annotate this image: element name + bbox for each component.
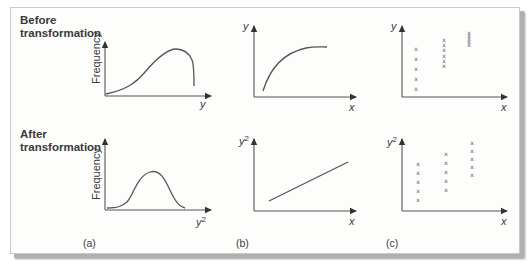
panel-c-after: y2 x xxxxxxxxxxxxxxx: [386, 135, 507, 227]
y-axis-label: y2: [238, 134, 250, 147]
scatter-mark: x: [414, 65, 418, 72]
straight-line: [269, 162, 348, 201]
x-axis-label: x: [500, 215, 507, 227]
scatter-mark: x: [470, 155, 474, 162]
panel-tag-b: (b): [236, 237, 249, 249]
scatter-mark: x: [444, 150, 448, 157]
y-axis-label: Frequency: [90, 32, 102, 84]
scatter-mark: x: [444, 168, 448, 175]
scatter-mark: x: [470, 163, 474, 170]
row-label-before-line2: transformation: [20, 27, 101, 39]
scatter-mark: x: [444, 186, 448, 193]
scatter-mark: x: [416, 196, 420, 203]
row-label-before-line1: Before: [20, 14, 56, 26]
scatter-mark: x: [414, 75, 418, 82]
scatter-mark: x: [414, 45, 418, 52]
bell-curve: [107, 171, 185, 208]
row-label-after-line2: transformation: [20, 141, 101, 153]
row-label-after-line1: After: [20, 128, 47, 140]
scatter-mark: x: [414, 85, 418, 92]
y-axis-label: Frequency: [90, 148, 102, 200]
scatter-mark: x: [467, 41, 471, 48]
scatter-mark: x: [470, 139, 474, 146]
panel-a-before: Frequency y: [90, 32, 211, 110]
transformation-figure: Before transformation After transformati…: [0, 0, 531, 267]
x-axis-label-base: y2: [195, 215, 207, 228]
scatter-mark: x: [416, 187, 420, 194]
x-axis-label: x: [348, 215, 355, 227]
panel-tag-a: (a): [83, 237, 96, 249]
scatter-mark: x: [444, 177, 448, 184]
scatter-mark: x: [414, 55, 418, 62]
panel-b-after: y2 x: [238, 134, 356, 227]
y-axis-label: y2: [386, 135, 398, 148]
scatter-mark: x: [470, 147, 474, 154]
panel-c-before: y x xxxxxxxxxxxxxxxx: [390, 20, 507, 113]
scatter-mark: x: [470, 171, 474, 178]
y-axis-label: y: [242, 20, 250, 32]
skewed-curve: [106, 49, 194, 94]
x-axis-label: y: [199, 98, 207, 110]
scatter-points: xxxxxxxxxxxxxxxx: [414, 29, 471, 92]
scatter-points: xxxxxxxxxxxxxxx: [416, 139, 474, 203]
x-axis-label: x: [500, 101, 507, 113]
x-axis-label: x: [348, 101, 355, 113]
scatter-mark: x: [444, 159, 448, 166]
scatter-mark: x: [416, 169, 420, 176]
panel-b-before: y x: [242, 20, 356, 113]
panel-a-after: Frequency y2: [90, 139, 211, 228]
scatter-mark: x: [442, 62, 446, 69]
scatter-mark: x: [416, 160, 420, 167]
scatter-mark: x: [416, 178, 420, 185]
panel-tag-c: (c): [386, 237, 398, 249]
y-axis-label: y: [390, 20, 398, 32]
concave-curve: [263, 47, 327, 91]
